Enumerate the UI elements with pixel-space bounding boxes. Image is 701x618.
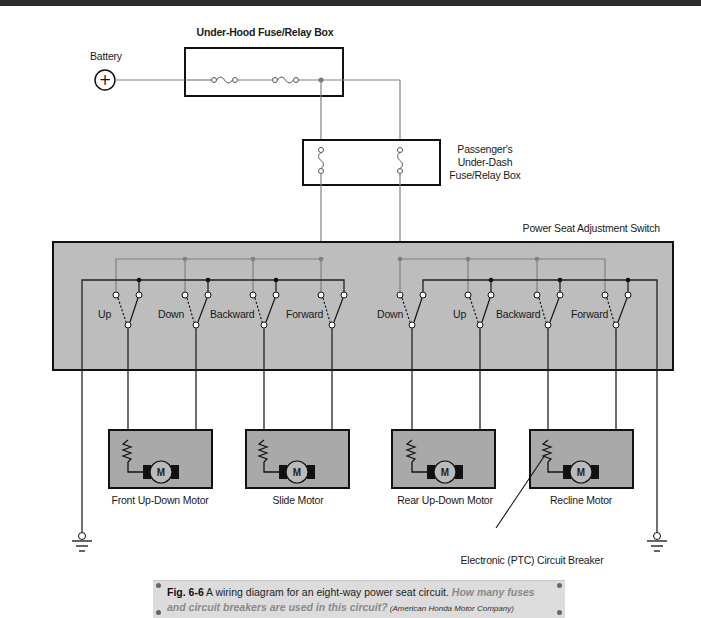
caption-text: A wiring diagram for an eight-way power …	[204, 586, 452, 598]
switch-box-label: Power Seat Adjustment Switch	[523, 222, 661, 234]
motor-front-up-down: M Front Up-Down Motor	[109, 430, 212, 506]
switch-label: Down	[158, 308, 184, 320]
figure-caption: Fig. 6-6 A wiring diagram for an eight-w…	[153, 580, 565, 618]
ground-icon-right	[647, 520, 667, 551]
motor-label: Slide Motor	[273, 494, 325, 506]
ptc-leader-line	[496, 455, 545, 528]
underhood-fuse-box: Under-Hood Fuse/Relay Box	[185, 26, 400, 96]
underdash-label-line2: Under-Dash	[458, 156, 513, 168]
underhood-box-label: Under-Hood Fuse/Relay Box	[197, 26, 334, 38]
underdash-label-line3: Fuse/Relay Box	[449, 169, 521, 181]
underdash-fuse-box: Passenger's Under-Dash Fuse/Relay Box	[303, 140, 522, 185]
switch-label: Up	[453, 308, 466, 320]
svg-text:M: M	[441, 467, 449, 478]
switch-label: Forward	[571, 308, 608, 320]
svg-text:M: M	[157, 467, 165, 478]
wiring-diagram: Battery + Under-Hood Fuse/Relay Box	[0, 0, 701, 618]
svg-text:M: M	[293, 467, 301, 478]
battery-label: Battery	[90, 50, 123, 62]
caption-credit: (American Honda Motor Company)	[388, 604, 514, 613]
figure-number: Fig. 6-6	[167, 586, 204, 598]
switch-label: Up	[98, 308, 111, 320]
rivet-icon	[557, 583, 562, 588]
rivet-icon	[156, 583, 161, 588]
motor-recline: M Recline Motor	[530, 430, 633, 506]
motor-label: Recline Motor	[550, 494, 613, 506]
switch-label: Backward	[210, 308, 255, 320]
motor-label: Front Up-Down Motor	[111, 494, 209, 506]
rivet-icon	[557, 610, 562, 615]
svg-text:M: M	[577, 467, 585, 478]
switch-label: Backward	[496, 308, 541, 320]
motor-rear-up-down: M Rear Up-Down Motor	[392, 430, 495, 506]
switch-label: Down	[377, 308, 403, 320]
battery: Battery +	[90, 50, 123, 90]
switch-label: Forward	[286, 308, 323, 320]
battery-plus: +	[99, 71, 112, 89]
motor-slide: M Slide Motor	[246, 430, 349, 506]
motor-label: Rear Up-Down Motor	[397, 494, 493, 506]
ground-icon-left	[72, 520, 92, 551]
ptc-label: Electronic (PTC) Circuit Breaker	[461, 554, 605, 566]
rivet-icon	[156, 610, 161, 615]
underdash-label-line1: Passenger's	[457, 143, 512, 155]
